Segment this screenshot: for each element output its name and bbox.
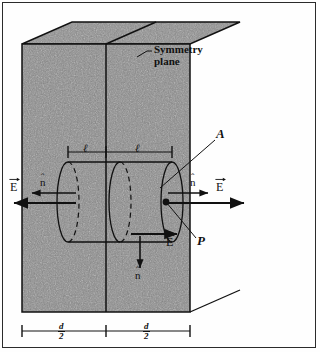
E-label-bottom-text: E <box>166 235 173 249</box>
ell-label-right: ℓ <box>135 143 140 155</box>
slab-bottom-right-edge <box>190 290 240 312</box>
symmetry-plane-label: Symmetry plane <box>154 44 203 67</box>
d-half-left-denominator: 2 <box>58 332 65 341</box>
symmetry-plane-label-line2: plane <box>154 55 180 67</box>
E-label-left-text: E <box>10 180 17 194</box>
hat-accent-down: ˆ <box>135 266 141 277</box>
ell-label-left: ℓ <box>83 143 88 155</box>
d-half-right-denominator: 2 <box>143 332 150 341</box>
normal-label-right: ˆ n <box>190 177 196 189</box>
d-half-dimension-line <box>22 325 190 337</box>
normal-label-left: ˆ n <box>40 177 46 189</box>
area-A-label: A <box>216 127 225 141</box>
d-half-label-right: d 2 <box>143 322 150 341</box>
E-label-bottom: E <box>166 236 173 249</box>
hat-accent-left: ˆ <box>40 173 46 184</box>
E-label-right-text: E <box>216 180 223 194</box>
point-P-label: P <box>197 234 205 248</box>
E-label-right: E <box>216 181 223 194</box>
d-half-label-left: d 2 <box>58 322 65 341</box>
normal-label-down: ˆ n <box>135 270 141 282</box>
E-label-left: E <box>10 181 17 194</box>
physics-figure: Symmetry plane A P ℓ ℓ ˆ n ˆ n ˆ n E E <box>0 0 320 352</box>
hat-accent-right: ˆ <box>190 173 196 184</box>
symmetry-plane-label-line1: Symmetry <box>154 43 203 55</box>
